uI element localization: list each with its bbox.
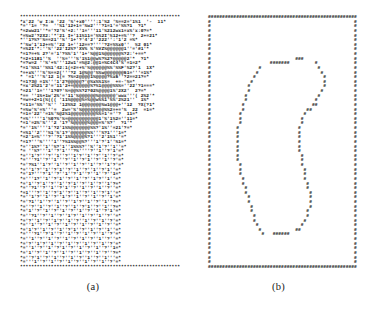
- panel-a: ****************************************…: [0, 0, 186, 292]
- ascii-density-map-a: ****************************************…: [20, 16, 180, 270]
- ascii-contour-map-b: ########################################…: [208, 16, 357, 270]
- figure-container: ****************************************…: [0, 0, 371, 318]
- panel-a-caption: (a): [87, 281, 99, 292]
- panel-b-caption: (b): [272, 281, 285, 292]
- panel-b: ########################################…: [186, 0, 371, 292]
